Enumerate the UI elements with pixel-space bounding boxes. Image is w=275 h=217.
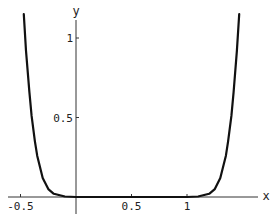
y-axis-label: y — [72, 4, 79, 18]
chart: -0.50.510.51xy — [0, 0, 275, 217]
x-axis-label: x — [262, 189, 269, 203]
y-tick-label: 1 — [66, 32, 73, 45]
plot-area — [24, 14, 239, 197]
axis-labels: -0.50.510.51xy — [7, 4, 269, 213]
y-tick-label: 0.5 — [53, 112, 73, 125]
data-curve — [24, 14, 239, 197]
x-tick-label: -0.5 — [7, 200, 34, 213]
x-tick-label: 0.5 — [122, 200, 142, 213]
x-tick-label: 1 — [184, 200, 191, 213]
